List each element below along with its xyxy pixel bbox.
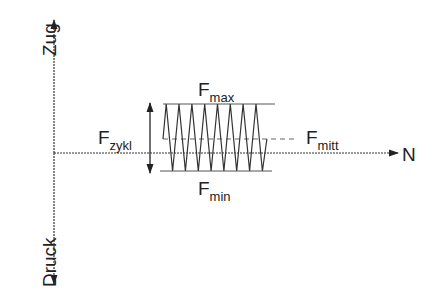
diagram-graphics [0, 0, 434, 302]
label-f-max: Fmax [198, 80, 234, 104]
label-f-zykl: Fzykl [98, 128, 132, 152]
axis-label-zug: Zug [40, 23, 59, 56]
axis-label-druck: Druck [40, 237, 59, 287]
label-f-mitt: Fmitt [306, 128, 339, 152]
label-f-min: Fmin [198, 179, 231, 203]
axis-label-n: N [402, 145, 416, 164]
cyclic-load-diagram: Zug Druck N Fmax Fmin Fmitt Fzykl [0, 0, 434, 302]
cyclic-load-wave [163, 104, 267, 171]
